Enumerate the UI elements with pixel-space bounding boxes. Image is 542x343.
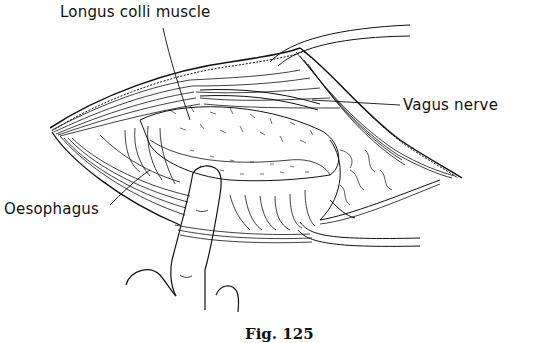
retracting-finger — [126, 166, 239, 312]
label-vagus-nerve: Vagus nerve — [403, 96, 498, 114]
longus-colli-muscle-area — [140, 106, 339, 181]
label-longus-colli-muscle: Longus colli muscle — [60, 3, 210, 21]
label-oesophagus: Oesophagus — [4, 200, 99, 218]
figure-caption: Fig. 125 — [245, 325, 314, 343]
vagus-nerve — [200, 25, 410, 110]
leader-lines — [110, 28, 400, 205]
